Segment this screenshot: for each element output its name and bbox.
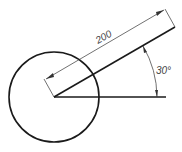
angle-arrow-top	[143, 46, 147, 53]
inclined-line	[54, 27, 175, 97]
extension-line-start	[44, 79, 54, 97]
angle-label: 30°	[156, 65, 171, 76]
length-label: 200	[93, 28, 114, 47]
extension-line-end	[165, 9, 175, 27]
technical-drawing: 200 30°	[0, 0, 182, 152]
angle-arc	[143, 46, 157, 97]
angle-arrow-bottom	[155, 90, 158, 97]
arrowhead-end	[156, 10, 164, 16]
arrowhead-start	[46, 73, 54, 79]
